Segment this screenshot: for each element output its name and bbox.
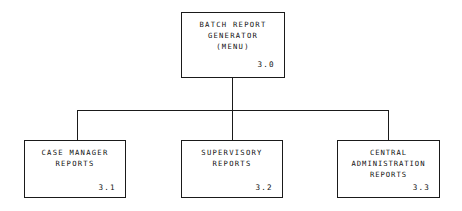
diagram-canvas: BATCH REPORT GENERATOR (MENU) 3.0 CASE M… (0, 0, 462, 211)
connector-root-stem (232, 78, 233, 111)
process-id-number: 3.1 (32, 182, 118, 193)
process-label-line-2: GENERATOR (189, 30, 277, 41)
connector-drop-case-manager (77, 110, 78, 140)
process-label-line-3: REPORTS (345, 169, 432, 180)
process-box-supervisory-reports[interactable]: SUPERVISORY REPORTS 3.2 (181, 140, 283, 198)
process-id-number: 3.2 (189, 182, 275, 193)
process-label-line-2: ADMINISTRATION (345, 158, 432, 169)
process-box-label-group: CENTRAL ADMINISTRATION REPORTS (345, 147, 432, 180)
process-box-label-group: CASE MANAGER REPORTS (32, 147, 118, 169)
process-id-number: 3.3 (345, 182, 432, 193)
process-id-number: 3.0 (189, 59, 277, 73)
process-label-line-2: REPORTS (32, 158, 118, 169)
process-label-line-2: REPORTS (189, 158, 275, 169)
connector-drop-central-admin (388, 110, 389, 140)
connector-drop-supervisory (232, 110, 233, 140)
process-label-line-1: BATCH REPORT (189, 19, 277, 30)
process-box-label-group: BATCH REPORT GENERATOR (MENU) (189, 19, 277, 52)
process-box-batch-report-generator[interactable]: BATCH REPORT GENERATOR (MENU) 3.0 (181, 12, 285, 78)
process-box-case-manager-reports[interactable]: CASE MANAGER REPORTS 3.1 (24, 140, 126, 198)
process-box-label-group: SUPERVISORY REPORTS (189, 147, 275, 169)
process-label-line-1: SUPERVISORY (189, 147, 275, 158)
connector-horizontal-bus (77, 110, 389, 111)
process-label-line-3: (MENU) (189, 41, 277, 52)
process-label-line-1: CASE MANAGER (32, 147, 118, 158)
process-box-central-administration-reports[interactable]: CENTRAL ADMINISTRATION REPORTS 3.3 (337, 140, 440, 198)
process-label-line-1: CENTRAL (345, 147, 432, 158)
